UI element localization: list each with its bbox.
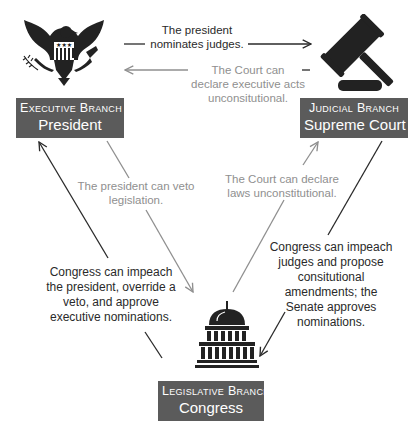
judicial-branch-label: Judicial Branch Supreme Court — [300, 98, 408, 138]
arrow-impeach-president-a — [145, 332, 162, 358]
caption-congress-impeach-president: Congress can impeach the president, over… — [40, 265, 182, 325]
capitol-icon — [195, 301, 259, 371]
caption-nominates-judges: The president nominates judges. — [146, 23, 248, 51]
legislative-branch-label: Legislative Branch Congress — [158, 381, 264, 421]
executive-branch-name: Executive Branch — [20, 101, 120, 116]
legislative-branch-name: Legislative Branch — [162, 384, 260, 399]
executive-branch-label: Executive Branch President — [16, 98, 124, 138]
arrow-veto-a — [107, 141, 129, 178]
executive-branch-head: President — [20, 116, 120, 134]
judicial-branch-name: Judicial Branch — [304, 101, 404, 116]
caption-congress-impeach-judges: Congress can impeach judges and propose … — [266, 240, 396, 330]
legislative-branch-head: Congress — [162, 399, 260, 417]
caption-court-declares-executive: The Court can declare executive acts unc… — [186, 63, 310, 105]
eagle-seal-icon: ★★★ — [20, 12, 108, 88]
judicial-branch-head: Supreme Court — [304, 116, 404, 134]
arrow-laws-b — [303, 142, 318, 165]
caption-president-veto: The president can veto legislation. — [76, 179, 196, 207]
caption-court-declares-laws: The Court can declare laws unconstitutio… — [224, 172, 340, 200]
svg-text:★★★: ★★★ — [56, 41, 72, 48]
gavel-icon — [308, 14, 408, 94]
